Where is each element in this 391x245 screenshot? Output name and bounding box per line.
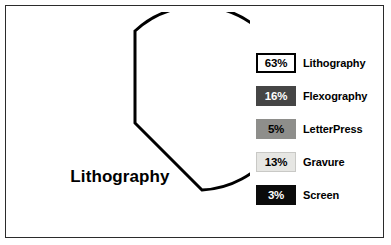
legend-swatch-flexography: 16% <box>256 86 296 106</box>
legend-swatch-screen: 3% <box>256 185 296 205</box>
legend-swatch-gravure: 13% <box>256 152 296 172</box>
legend-item-letterpress[interactable]: 5% LetterPress <box>256 118 388 140</box>
legend-item-gravure[interactable]: 13% Gravure <box>256 151 388 173</box>
chart-legend: 63% Lithography 16% Flexography 5% Lette… <box>256 52 388 206</box>
legend-label-flexography: Flexography <box>303 90 367 102</box>
legend-label-screen: Screen <box>303 189 339 201</box>
legend-swatch-lithography: 63% <box>256 53 296 73</box>
chart-screenshot: Lithography 63% Lithography 16% Flexogra… <box>0 0 391 245</box>
pie-slice-lithography[interactable] <box>135 12 250 190</box>
legend-item-lithography[interactable]: 63% Lithography <box>256 52 388 74</box>
legend-swatch-letterpress: 5% <box>256 119 296 139</box>
legend-item-screen[interactable]: 3% Screen <box>256 184 388 206</box>
chart-frame-border: Lithography 63% Lithography 16% Flexogra… <box>5 5 384 238</box>
legend-label-lithography: Lithography <box>303 57 365 69</box>
pie-chart <box>18 12 250 232</box>
legend-item-flexography[interactable]: 16% Flexography <box>256 85 388 107</box>
legend-label-letterpress: LetterPress <box>303 123 362 135</box>
legend-label-gravure: Gravure <box>303 156 345 168</box>
pie-slice-label-lithography: Lithography <box>40 167 200 187</box>
